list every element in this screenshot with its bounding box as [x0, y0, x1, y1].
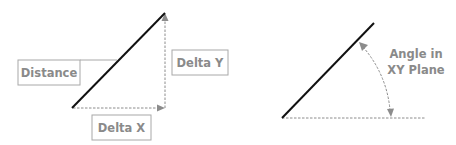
- angle-label-line1: Angle in: [389, 47, 442, 61]
- right-diagram-angle: Angle in XY Plane: [282, 23, 445, 118]
- left-diagram-distance-components: Distance Delta Y Delta X: [18, 13, 228, 140]
- arc-arrow-bottom-icon: [387, 109, 394, 118]
- delta-y-label: Delta Y: [177, 56, 225, 70]
- angle-label-line2: XY Plane: [387, 63, 445, 77]
- arc-arrow-top-icon: [359, 42, 368, 51]
- distance-label: Distance: [21, 66, 78, 80]
- distance-angle-diagram: Distance Delta Y Delta X Angle in XY Pla…: [0, 0, 456, 145]
- vector-solid-line: [282, 23, 374, 118]
- delta-x-label: Delta X: [98, 121, 146, 135]
- angle-arc: [363, 47, 390, 110]
- arrow-right-icon: [157, 105, 165, 112]
